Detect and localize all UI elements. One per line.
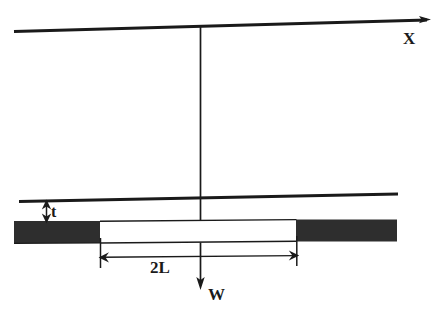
span-label: 2L (150, 259, 170, 276)
datum-line-group (19, 194, 398, 202)
datum-line (19, 194, 398, 202)
x-axis-label: X (403, 30, 415, 47)
plate-center-open-section (100, 221, 296, 243)
plate-left-solid-section (14, 221, 100, 243)
load-label: W (208, 286, 225, 303)
x-axis-group (14, 16, 431, 32)
x-axis-line (14, 20, 427, 32)
span-dimension-line (101, 256, 297, 258)
thickness-label: t (51, 204, 56, 220)
diagram-canvas: X t 2L W (0, 0, 437, 317)
diagram-vector-layer (0, 0, 437, 317)
load-line-group (196, 25, 204, 290)
thickness-dimension-group (42, 200, 51, 224)
plate-group (14, 220, 397, 244)
plate-right-solid-section (296, 220, 397, 242)
